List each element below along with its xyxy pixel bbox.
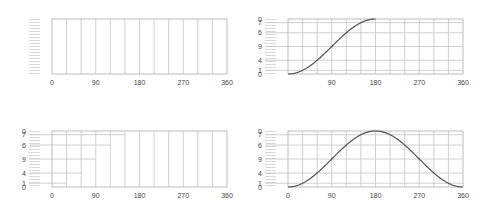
y-tick-label: 0 [22, 184, 26, 191]
x-tick-label: 180 [134, 79, 146, 86]
y-tick-label: 7 [258, 131, 262, 138]
y-tick-label: 9 [258, 156, 262, 163]
chart-top-left: 090180270360 [29, 19, 233, 86]
x-tick-label: 270 [413, 79, 425, 86]
x-tick-label: 360 [457, 192, 469, 199]
x-tick-label: 360 [221, 79, 233, 86]
x-tick-label: 180 [370, 192, 382, 199]
x-tick-label: 90 [92, 79, 100, 86]
chart-top-right: 076941090180270360 [258, 16, 469, 87]
y-tick-label: 6 [258, 29, 262, 36]
y-tick-label: 6 [258, 142, 262, 149]
x-tick-label: 270 [413, 192, 425, 199]
chart-bottom-left: 0769410090180270360 [22, 128, 233, 200]
x-tick-label: 0 [50, 79, 54, 86]
x-tick-label: 180 [134, 192, 146, 199]
y-tick-label: 7 [258, 19, 262, 26]
x-tick-label: 360 [221, 192, 233, 199]
x-tick-label: 360 [457, 79, 469, 86]
y-tick-label: 9 [258, 43, 262, 50]
x-tick-label: 90 [92, 192, 100, 199]
y-tick-label: 6 [22, 142, 26, 149]
x-tick-label: 180 [370, 79, 382, 86]
x-tick-label: 270 [177, 192, 189, 199]
x-tick-label: 0 [286, 192, 290, 199]
x-tick-label: 90 [328, 79, 336, 86]
y-tick-label: 9 [22, 156, 26, 163]
x-tick-label: 0 [50, 192, 54, 199]
x-tick-label: 90 [328, 192, 336, 199]
x-tick-label: 270 [177, 79, 189, 86]
chart-canvas: 090180270360 076941090180270360 07694100… [0, 0, 492, 211]
y-tick-label: 0 [258, 184, 262, 191]
y-tick-label: 0 [258, 71, 262, 78]
chart-bottom-right: 0769410090180270360 [258, 128, 469, 200]
y-tick-label: 4 [258, 170, 262, 177]
y-tick-label: 4 [258, 57, 262, 64]
y-tick-label: 7 [22, 131, 26, 138]
y-tick-label: 4 [22, 170, 26, 177]
